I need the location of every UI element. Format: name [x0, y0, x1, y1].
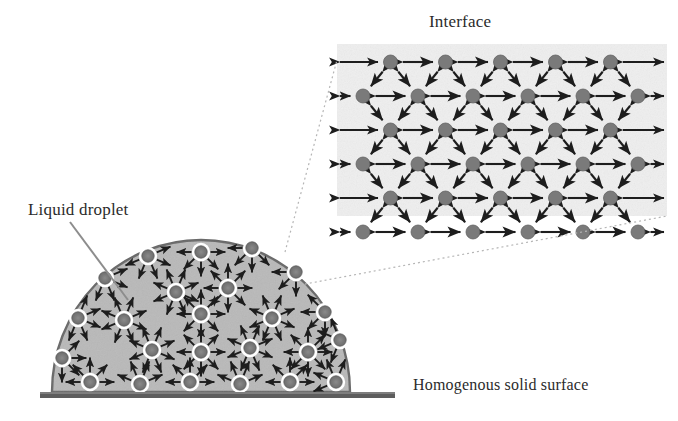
- molecule: [521, 157, 535, 171]
- molecule: [195, 246, 207, 258]
- molecule: [631, 89, 645, 103]
- molecule: [384, 191, 398, 205]
- homogenous-solid-surface: [40, 392, 395, 398]
- molecule: [222, 282, 234, 294]
- molecule: [195, 308, 207, 320]
- molecule: [631, 157, 645, 171]
- molecule: [284, 376, 296, 388]
- molecule: [549, 123, 563, 137]
- molecule: [302, 346, 314, 358]
- molecule: [146, 344, 158, 356]
- molecule: [195, 346, 207, 358]
- molecule: [494, 123, 508, 137]
- liquid-droplet-label: Liquid droplet: [28, 200, 129, 220]
- molecule: [234, 378, 246, 390]
- molecule: [604, 191, 618, 205]
- molecule: [466, 225, 480, 239]
- molecule: [72, 312, 84, 324]
- molecule: [466, 157, 480, 171]
- molecule: [411, 89, 425, 103]
- solid-surface-label: Homogenous solid surface: [413, 376, 588, 394]
- molecule: [319, 306, 331, 318]
- molecule: [266, 312, 278, 324]
- molecule: [439, 123, 453, 137]
- molecule: [56, 352, 68, 364]
- molecule: [356, 157, 370, 171]
- molecule: [604, 123, 618, 137]
- molecule: [494, 55, 508, 69]
- molecule: [290, 266, 302, 278]
- molecule: [576, 89, 590, 103]
- molecule: [244, 342, 256, 354]
- molecule: [549, 191, 563, 205]
- molecule: [576, 157, 590, 171]
- molecule: [494, 191, 508, 205]
- molecule: [356, 225, 370, 239]
- molecule: [356, 89, 370, 103]
- molecule: [466, 89, 480, 103]
- molecule: [384, 123, 398, 137]
- molecule: [330, 376, 342, 388]
- molecule: [439, 55, 453, 69]
- molecule: [521, 89, 535, 103]
- molecule: [184, 376, 196, 388]
- inset-leader-upper: [285, 60, 337, 252]
- molecule: [604, 55, 618, 69]
- molecule: [411, 157, 425, 171]
- inset-leader-lower: [300, 216, 667, 285]
- molecule: [142, 250, 154, 262]
- molecule: [521, 225, 535, 239]
- molecule: [384, 55, 398, 69]
- molecule: [631, 225, 645, 239]
- molecule: [84, 376, 96, 388]
- molecule: [576, 225, 590, 239]
- molecule: [118, 314, 130, 326]
- molecule: [439, 191, 453, 205]
- molecule: [549, 55, 563, 69]
- surface-highlight: [40, 392, 395, 394]
- molecule: [170, 286, 182, 298]
- molecule: [134, 378, 146, 390]
- molecule: [411, 225, 425, 239]
- interface-label: Interface: [429, 12, 491, 32]
- molecule: [246, 242, 258, 254]
- molecule: [334, 334, 346, 346]
